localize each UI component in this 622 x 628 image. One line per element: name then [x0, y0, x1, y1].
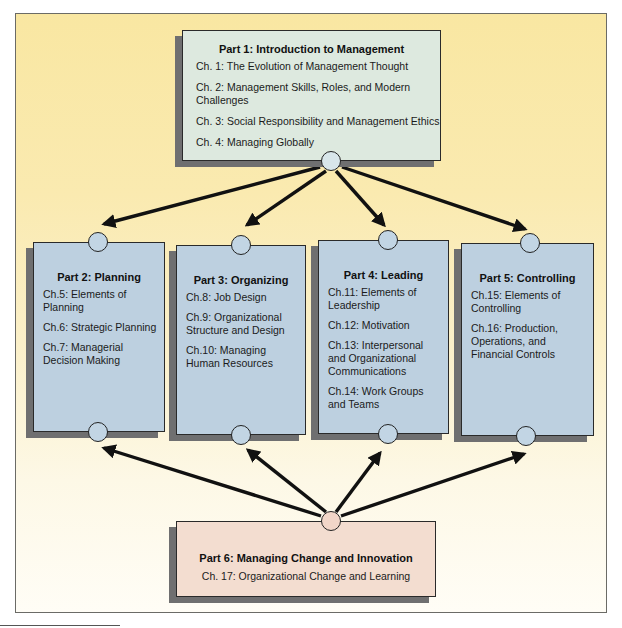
chapter-item: Ch.14: Work Groups and Teams — [319, 385, 448, 411]
part2-bottom-node — [88, 422, 108, 442]
chapter-item: Ch.7: Managerial Decision Making — [34, 341, 164, 367]
part5-bottom-node — [516, 426, 536, 446]
part1-box: Part 1: Introduction to Management Ch. 1… — [182, 30, 441, 161]
chapter-item: Ch.16: Production, Operations, and Finan… — [462, 322, 593, 361]
arrow-part1-to-part5 — [342, 167, 525, 229]
part5-box: Part 5: Controlling Ch.15: Elements of C… — [461, 243, 594, 436]
part6-title: Part 6: Managing Change and Innovation — [177, 522, 435, 564]
chapter-item: Ch. 2: Management Skills, Roles, and Mod… — [183, 81, 440, 107]
chapter-item: Ch.11: Elements of Leadership — [319, 286, 448, 312]
arrow-part1-to-part3 — [247, 171, 326, 225]
part1-connector-node — [321, 151, 341, 171]
part5-top-node — [520, 233, 540, 253]
chapter-item: Ch.8: Job Design — [177, 291, 305, 304]
arrow-part6-to-part3 — [248, 450, 326, 512]
part2-box: Part 2: Planning Ch.5: Elements of Plann… — [33, 242, 165, 432]
arrow-part6-to-part5 — [341, 454, 524, 516]
chapter-item: Ch.6: Strategic Planning — [34, 321, 164, 334]
chapter-item: Ch.10: Managing Human Resources — [177, 344, 305, 370]
chapter-item: Ch. 1: The Evolution of Management Thoug… — [183, 60, 440, 73]
chapter-item: Ch. 3: Social Responsibility and Managem… — [183, 115, 440, 128]
arrow-part6-to-part4 — [336, 453, 380, 512]
chapter-item: Ch. 4: Managing Globally — [183, 136, 440, 149]
part2-top-node — [88, 232, 108, 252]
part3-top-node — [231, 235, 251, 255]
chapter-item: Ch.5: Elements of Planning — [34, 288, 164, 314]
part4-top-node — [378, 230, 398, 250]
chapter-item: Ch.9: Organizational Structure and Desig… — [177, 311, 305, 337]
part6-box: Part 6: Managing Change and Innovation C… — [176, 521, 436, 597]
part3-box: Part 3: Organizing Ch.8: Job Design Ch.9… — [176, 245, 306, 435]
part1-title: Part 1: Introduction to Management — [183, 31, 440, 55]
chapter-item: Ch.15: Elements of Controlling — [462, 289, 593, 315]
part4-bottom-node — [378, 424, 398, 444]
part3-bottom-node — [231, 425, 251, 445]
part4-box: Part 4: Leading Ch.11: Elements of Leade… — [318, 240, 449, 434]
part6-connector-node — [321, 511, 341, 531]
chapter-item: Ch.12: Motivation — [319, 319, 448, 332]
chapter-item: Ch. 17: Organizational Change and Learni… — [177, 570, 435, 583]
chapter-item: Ch.13: Interpersonal and Organizational … — [319, 339, 448, 378]
